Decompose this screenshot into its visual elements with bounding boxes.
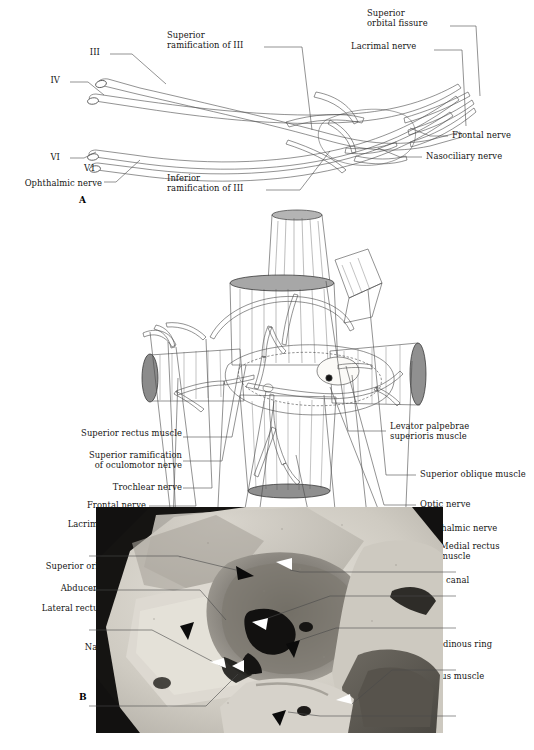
panel-a: III IV VI V1 Ophthalmic nerve Superior r… — [0, 0, 534, 205]
label-v1: V1 — [84, 163, 108, 173]
label-levator-palpebrae-superioris-muscle: Levator palpebrae superioris muscle — [390, 421, 520, 442]
label-frontal-nerve: Frontal nerve — [452, 130, 534, 140]
label-nasociliary-nerve: Nasociliary nerve — [426, 151, 530, 161]
label-iv: IV — [36, 75, 60, 85]
label-ophthalmic-nerve: Ophthalmic nerve — [10, 178, 102, 188]
label-trochlear-nerve: Trochlear nerve — [76, 482, 182, 492]
label-iii: III — [76, 47, 100, 57]
orbit-photograph — [96, 507, 443, 733]
label-superior-ramification-of-oculomotor-nerve: Superior ramification of oculomotor nerv… — [56, 450, 182, 471]
figure-orbit-nerves: III IV VI V1 Ophthalmic nerve Superior r… — [0, 0, 534, 750]
label-lacrimal-nerve: Lacrimal nerve — [351, 41, 439, 51]
panel-c: Supraorbital border Zygomatic bone Infer… — [0, 500, 534, 750]
panel-letter-a: A — [79, 195, 86, 205]
label-superior-rectus-muscle: Superior rectus muscle — [56, 428, 182, 438]
panel-b: Superior rectus muscle Superior ramifica… — [0, 205, 534, 505]
label-vi: VI — [36, 152, 60, 162]
label-superior-ramification-of-iii: Superior ramification of III — [167, 30, 277, 51]
orbit-photo-content — [96, 507, 443, 733]
label-superior-orbital-fissure: Superior orbital fissure — [367, 8, 463, 29]
label-inferior-ramification-of-iii: Inferior ramification of III — [167, 173, 277, 194]
label-superior-oblique-muscle: Superior oblique muscle — [420, 469, 534, 479]
